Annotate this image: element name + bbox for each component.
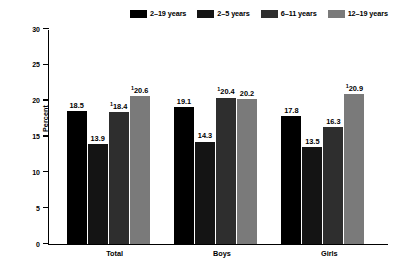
bar-value-text: 20.9	[349, 84, 363, 93]
legend-item-label: 2–19 years	[150, 10, 186, 18]
y-axis-tick-label: 25	[23, 61, 40, 68]
legend-item[interactable]: 12–19 years	[328, 10, 388, 18]
bar-value-label: 20.2	[224, 90, 270, 98]
bar-item[interactable]: 120.6	[130, 30, 150, 244]
bar-value-text: 20.6	[134, 86, 148, 95]
legend-item[interactable]: 2–5 years	[197, 10, 249, 18]
x-axis-group-label: Boys	[174, 250, 270, 258]
bar-item[interactable]: 120.4	[216, 30, 236, 244]
bar[interactable]	[130, 96, 150, 244]
bar-value-text: 19.1	[177, 97, 191, 106]
y-axis-tick-label: 20	[23, 97, 40, 104]
bar[interactable]	[302, 147, 322, 244]
bar[interactable]	[88, 144, 108, 244]
legend-swatch-icon	[130, 10, 147, 18]
bar-value-text: 18.5	[69, 101, 83, 110]
y-axis-tick-label: 30	[23, 26, 40, 33]
bar-value-text: 18.4	[113, 102, 127, 111]
bar-value-text: 17.8	[284, 106, 298, 115]
bar[interactable]	[237, 99, 257, 244]
legend-swatch-icon	[261, 10, 278, 18]
bar[interactable]	[281, 116, 301, 244]
bar-value-text: 14.3	[198, 131, 212, 140]
bar-group: 17.813.516.3120.9Girls	[281, 30, 377, 244]
bar-value-label: 120.9	[331, 85, 377, 93]
y-axis-tick-label: 0	[23, 241, 40, 248]
bar-chart: 2–19 years2–5 years6–11 years12–19 years…	[0, 0, 396, 272]
bar-item[interactable]: 120.9	[344, 30, 364, 244]
bar-value-text: 13.9	[90, 134, 104, 143]
legend-item-label: 6–11 years	[281, 10, 317, 18]
bar-item[interactable]: 14.3	[195, 30, 215, 244]
bar[interactable]	[67, 111, 87, 244]
bar[interactable]	[216, 98, 236, 244]
bar-value-label: 120.6	[117, 87, 163, 95]
chart-legend: 2–19 years2–5 years6–11 years12–19 years	[130, 7, 392, 21]
legend-item[interactable]: 6–11 years	[261, 10, 317, 18]
y-axis-tick	[43, 28, 49, 29]
plot-area: Percent 051015202530 18.513.9118.4120.6T…	[48, 30, 388, 245]
legend-item[interactable]: 2–19 years	[130, 10, 186, 18]
bar-group: 18.513.9118.4120.6Total	[67, 30, 163, 244]
bar-item[interactable]: 16.3	[323, 30, 343, 244]
bar-group: 19.114.3120.420.2Boys	[174, 30, 270, 244]
bar-value-text: 16.3	[326, 117, 340, 126]
bar-value-text: 20.2	[240, 89, 254, 98]
bar-item[interactable]: 13.9	[88, 30, 108, 244]
bar[interactable]	[109, 112, 129, 244]
legend-swatch-icon	[328, 10, 345, 18]
legend-item-label: 2–5 years	[217, 10, 249, 18]
bar-groups: 18.513.9118.4120.6Total19.114.3120.420.2…	[49, 30, 388, 244]
bar[interactable]	[323, 127, 343, 244]
x-axis-group-label: Girls	[281, 250, 377, 258]
bar-value-text: 13.5	[305, 137, 319, 146]
bar-group-bars: 18.513.9118.4120.6	[67, 30, 163, 244]
bar-item[interactable]: 118.4	[109, 30, 129, 244]
legend-swatch-icon	[197, 10, 214, 18]
legend-item-label: 12–19 years	[348, 10, 388, 18]
bar[interactable]	[195, 142, 215, 244]
y-axis-tick-label: 15	[23, 133, 40, 140]
bar[interactable]	[344, 94, 364, 244]
y-axis-tick-label: 5	[23, 205, 40, 212]
bar[interactable]	[174, 107, 194, 244]
bar-item[interactable]: 20.2	[237, 30, 257, 244]
x-axis-group-label: Total	[67, 250, 163, 258]
bar-group-bars: 19.114.3120.420.2	[174, 30, 270, 244]
bar-item[interactable]: 13.5	[302, 30, 322, 244]
bar-group-bars: 17.813.516.3120.9	[281, 30, 377, 244]
y-axis-tick-label: 10	[23, 169, 40, 176]
